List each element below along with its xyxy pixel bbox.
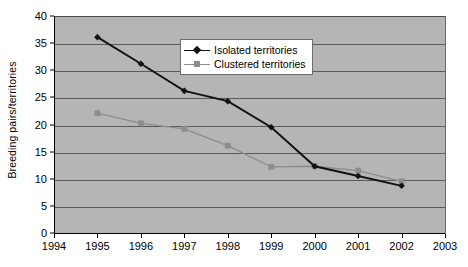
y-tick-label: 0: [41, 227, 47, 239]
x-tick-label: 1996: [129, 240, 153, 252]
y-axis-tick-labels: 0510152025303540: [24, 0, 50, 267]
legend-item-isolated: Isolated territories: [184, 43, 306, 57]
x-tick-mark: [358, 234, 359, 238]
x-tick-mark: [141, 234, 142, 238]
y-tick-label: 35: [35, 37, 47, 49]
x-tick-mark: [402, 234, 403, 238]
gridline: [54, 180, 445, 181]
x-tick-label: 2001: [346, 240, 370, 252]
x-tick-mark: [315, 234, 316, 238]
y-tick-label: 20: [35, 119, 47, 131]
x-tick-mark: [228, 234, 229, 238]
x-tick-label: 2000: [302, 240, 326, 252]
x-tick-label: 1999: [259, 240, 283, 252]
plot-right-border: [445, 16, 446, 234]
x-tick-label: 2003: [433, 240, 457, 252]
legend-label-clustered: Clustered territories: [214, 58, 306, 70]
diamond-marker-icon: [184, 44, 210, 56]
x-tick-mark: [184, 234, 185, 238]
y-tick-label: 5: [41, 200, 47, 212]
x-tick-label: 1997: [172, 240, 196, 252]
gridline: [54, 207, 445, 208]
x-axis-line: [54, 233, 446, 234]
x-tick-mark: [445, 234, 446, 238]
y-tick-label: 10: [35, 173, 47, 185]
chart-figure: Breeding pairs/territories 0510152025303…: [0, 0, 468, 267]
legend-item-clustered: Clustered territories: [184, 57, 306, 71]
x-tick-mark: [271, 234, 272, 238]
y-axis-title: Breeding pairs/territories: [0, 0, 24, 240]
x-tick-label: 2002: [389, 240, 413, 252]
x-tick-mark: [97, 234, 98, 238]
gridline: [54, 126, 445, 127]
square-marker-icon: [184, 58, 210, 70]
y-axis-title-text: Breeding pairs/territories: [6, 62, 18, 179]
x-tick-label: 1994: [42, 240, 66, 252]
gridline: [54, 153, 445, 154]
y-tick-label: 30: [35, 64, 47, 76]
legend-label-isolated: Isolated territories: [214, 44, 297, 56]
x-tick-label: 1995: [85, 240, 109, 252]
x-tick-label: 1998: [216, 240, 240, 252]
x-tick-mark: [54, 234, 55, 238]
y-tick-label: 40: [35, 10, 47, 22]
gridline: [54, 98, 445, 99]
legend: Isolated territories Clustered territori…: [180, 39, 313, 75]
y-axis-line: [54, 16, 55, 234]
y-tick-label: 15: [35, 146, 47, 158]
y-tick-label: 25: [35, 91, 47, 103]
